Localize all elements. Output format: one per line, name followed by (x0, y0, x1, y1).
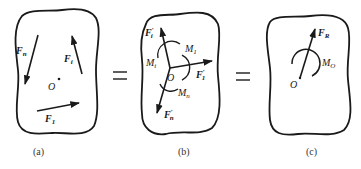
panel-b: F′i F′1 F′n M1 Mi Mn O (b) (141, 13, 219, 158)
force-arrow-f1 (37, 103, 79, 111)
point-label-o: O (48, 81, 55, 92)
force-label-fn-prime: F′n (163, 108, 174, 122)
force-arrow-fr (300, 29, 315, 78)
moment-arc-mi (158, 41, 180, 58)
point-label-o: O (167, 72, 174, 83)
force-system-reduction-diagram: Fn Fi O F1 (a) F′i F′1 (0, 0, 361, 169)
moment-arc-m1 (182, 55, 190, 80)
moment-label-mn: Mn (177, 87, 190, 100)
reference-point-o (299, 77, 301, 79)
caption-a: (a) (33, 146, 44, 158)
reference-point-o (58, 78, 61, 81)
moment-label-mi: Mi (145, 57, 156, 70)
panel-a: Fn Fi O F1 (a) (15, 9, 99, 158)
moment-arc-mn (160, 84, 178, 91)
equals-sign-1 (113, 72, 127, 79)
moment-label-m1: M1 (184, 43, 197, 56)
force-arrow-fn (25, 35, 38, 84)
rigid-body-outline (267, 15, 351, 135)
force-label-fi-prime: F′i (144, 26, 154, 40)
moment-label-mo: MO (321, 57, 335, 70)
force-arrow-fi (72, 36, 82, 74)
force-label-fi: Fi (63, 53, 73, 66)
equals-sign-2 (236, 73, 250, 80)
panel-c: FR MO O (c) (267, 15, 351, 158)
caption-b: (b) (178, 146, 190, 158)
moment-arc-mo (292, 49, 320, 76)
point-label-o: O (290, 79, 297, 90)
caption-c: (c) (306, 146, 317, 158)
force-label-fr: FR (317, 27, 330, 40)
force-label-f1: F1 (44, 113, 55, 126)
force-arrow-fi-prime (161, 28, 170, 68)
force-label-f1-prime: F′1 (195, 68, 205, 82)
force-arrow-f1-prime (170, 61, 212, 68)
